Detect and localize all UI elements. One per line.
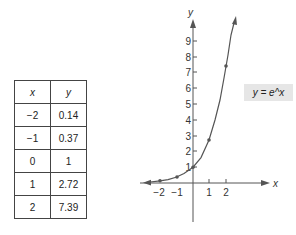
svg-text:−1: −1 [171, 187, 183, 198]
y-axis-label: y [187, 7, 194, 18]
svg-text:7: 7 [185, 67, 191, 78]
svg-text:4: 4 [185, 115, 191, 126]
svg-text:6: 6 [185, 83, 191, 94]
svg-text:8: 8 [185, 52, 191, 63]
x-ticks [209, 179, 226, 183]
svg-text:−2: −2 [153, 187, 165, 198]
curve-arrow-icon [232, 16, 237, 25]
svg-text:3: 3 [185, 131, 191, 142]
svg-text:2: 2 [223, 187, 229, 198]
y-axis-arrow-icon [190, 19, 196, 28]
svg-text:2: 2 [185, 146, 191, 157]
equation-label: y = e^x [244, 84, 293, 101]
graph: x y 123 456 789 −2−1 12 [0, 0, 296, 235]
svg-text:9: 9 [185, 36, 191, 47]
y-tick-labels: 123 456 789 [185, 36, 191, 173]
curve-left-arrow-icon [143, 180, 151, 186]
x-axis-arrow-icon [261, 180, 270, 186]
svg-text:1: 1 [206, 187, 212, 198]
y-ticks [193, 41, 197, 167]
x-tick-labels: −2−1 12 [153, 187, 229, 198]
svg-text:5: 5 [185, 99, 191, 110]
x-axis-label: x [272, 178, 279, 189]
